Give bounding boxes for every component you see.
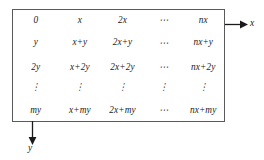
lattice-cell-r4c2: 2x+my [101,98,144,121]
lattice-cell-r1c0: y [13,30,59,56]
lattice-cell-r0c3-ellipsis: ⋯ [144,10,183,30]
lattice-cell-r0c0: 0 [13,10,59,30]
lattice-box: 0 x 2x ⋯ nx y x+y 2x+y ⋯ nx+y 2y x+2y 2x… [12,9,225,122]
lattice-cell-r0c4: nx [182,10,224,30]
table-row: my x+my 2x+my ⋯ nx+my [13,98,224,121]
lattice-cell-r4c0: my [13,98,59,121]
table-row-ellipsis: ⋮ ⋮ ⋮ ⋮ ⋮ [13,78,224,99]
lattice-cell-r3c1-ellipsis: ⋮ [59,78,102,99]
lattice-cell-r2c4: nx+2y [182,55,224,78]
lattice-cell-r1c1: x+y [59,30,102,56]
table-row: 0 x 2x ⋯ nx [13,10,224,30]
lattice-cell-r2c2: 2x+2y [101,55,144,78]
lattice-cell-r2c3-ellipsis: ⋯ [144,55,183,78]
lattice-cell-r4c3-ellipsis: ⋯ [144,98,183,121]
lattice-cell-r0c1: x [59,10,102,30]
lattice-cell-r2c0: 2y [13,55,59,78]
lattice-cell-r1c2: 2x+y [101,30,144,56]
arrow-right-icon [224,17,250,32]
lattice-cell-r1c3-ellipsis: ⋯ [144,30,183,56]
lattice-cell-r3c2-ellipsis: ⋮ [101,78,144,99]
lattice-cell-r1c4: nx+y [182,30,224,56]
lattice-cell-r2c1: x+2y [59,55,102,78]
table-row: y x+y 2x+y ⋯ nx+y [13,30,224,56]
x-axis-label: x [250,18,254,28]
lattice-table: 0 x 2x ⋯ nx y x+y 2x+y ⋯ nx+y 2y x+2y 2x… [13,10,224,121]
lattice-cell-r3c0-ellipsis: ⋮ [13,78,59,99]
y-axis-label: y [28,143,32,153]
table-row: 2y x+2y 2x+2y ⋯ nx+2y [13,55,224,78]
lattice-cell-r4c1: x+my [59,98,102,121]
lattice-cell-r3c3-ellipsis: ⋮ [144,78,183,99]
lattice-cell-r0c2: 2x [101,10,144,30]
lattice-cell-r3c4-ellipsis: ⋮ [182,78,224,99]
lattice-cell-r4c4: nx+my [182,98,224,121]
